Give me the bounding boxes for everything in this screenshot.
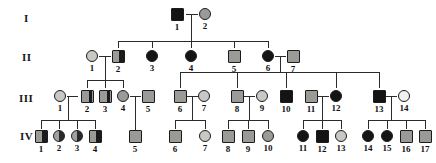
individual-iii-8-male[interactable]: [231, 90, 244, 103]
id-label-iii-4: 4: [121, 103, 126, 113]
id-label-iv-12: 12: [318, 144, 327, 154]
drop-IV-16: [406, 120, 407, 129]
id-label-ii-6: 6: [266, 63, 271, 73]
drop-III-10: [286, 72, 287, 88]
id-label-i-1: 1: [175, 22, 180, 32]
drop-IV-1: [41, 120, 42, 129]
id-label-iv-10: 10: [264, 143, 273, 153]
id-label-ii-4: 4: [189, 63, 194, 73]
drop-IV-13: [341, 120, 342, 129]
individual-iv-13-female[interactable]: [335, 130, 347, 142]
individual-iii-5-male[interactable]: [142, 90, 155, 103]
drop-III-12: [336, 72, 337, 88]
descent-III13x14: [391, 96, 392, 120]
id-label-iv-17: 17: [421, 144, 430, 154]
individual-iii-4-female[interactable]: [117, 90, 129, 102]
pedigree-chart: 1212345671234567891011121314123456789101…: [0, 0, 436, 163]
id-label-ii-5: 5: [232, 64, 237, 74]
individual-ii-4-female[interactable]: [185, 50, 197, 62]
individual-iv-3-female[interactable]: [71, 130, 83, 142]
individual-iii-9-female[interactable]: [256, 90, 268, 102]
individual-iv-10-female[interactable]: [262, 130, 274, 142]
individual-iii-6-male[interactable]: [174, 90, 187, 103]
id-label-iv-6: 6: [173, 144, 178, 154]
sibship-III-B: [180, 72, 379, 73]
id-label-iv-13: 13: [337, 143, 346, 153]
descent-I-to-II: [191, 14, 192, 41]
individual-iv-9-male[interactable]: [242, 130, 255, 143]
drop-IV-8: [228, 120, 229, 129]
individual-iii-12-female[interactable]: [330, 90, 342, 102]
descent-III6x7: [192, 96, 193, 120]
individual-iv-5-male[interactable]: [129, 130, 142, 143]
id-label-iv-1: 1: [39, 144, 44, 154]
drop-III-8: [237, 72, 238, 88]
individual-iv-11-female[interactable]: [297, 130, 309, 142]
drop-II-2: [118, 41, 119, 48]
generation-label-i: I: [24, 12, 29, 24]
descent-II1x2: [105, 56, 106, 80]
sibship-II-bar: [118, 41, 268, 42]
drop-IV-2: [59, 120, 60, 129]
id-label-iii-13: 13: [375, 104, 384, 114]
drop-IV-4: [95, 120, 96, 129]
individual-i-2-female[interactable]: [199, 8, 211, 20]
individual-iv-14-female[interactable]: [362, 130, 374, 142]
individual-iv-16-male[interactable]: [400, 130, 413, 143]
individual-iii-13-male[interactable]: [373, 90, 386, 103]
individual-iv-4-male[interactable]: [89, 130, 102, 143]
individual-iv-1-male[interactable]: [35, 130, 48, 143]
individual-iv-17-male[interactable]: [419, 130, 432, 143]
id-label-iv-11: 11: [299, 143, 308, 153]
individual-iii-10-male[interactable]: [280, 90, 293, 103]
id-label-iii-12: 12: [332, 103, 341, 113]
drop-IV-11: [303, 120, 304, 129]
id-label-ii-3: 3: [150, 63, 155, 73]
individual-ii-1-female[interactable]: [86, 50, 98, 62]
individual-iii-1-female[interactable]: [54, 90, 66, 102]
individual-iv-6-male[interactable]: [169, 130, 182, 143]
id-label-iv-15: 15: [383, 143, 392, 153]
individual-iii-14-female[interactable]: [398, 90, 410, 102]
individual-iii-3-male[interactable]: [99, 90, 112, 103]
drop-III-2: [87, 80, 88, 88]
drop-II-4: [191, 41, 192, 48]
descent-III1x2: [68, 96, 69, 120]
id-label-iii-3: 3: [103, 104, 108, 114]
drop-IV-6: [175, 120, 176, 129]
drop-IV-9: [248, 120, 249, 129]
individual-ii-5-male[interactable]: [228, 50, 241, 63]
individual-ii-3-female[interactable]: [146, 50, 158, 62]
individual-iii-11-male[interactable]: [305, 90, 318, 103]
id-label-iii-8: 8: [235, 104, 240, 114]
drop-II-6: [268, 41, 269, 48]
drop-IV-15: [387, 120, 388, 129]
individual-iv-12-male[interactable]: [316, 130, 329, 143]
individual-ii-6-female[interactable]: [262, 50, 274, 62]
generation-label-iii: III: [19, 92, 33, 104]
individual-i-1-male[interactable]: [171, 8, 184, 21]
individual-iv-7-female[interactable]: [199, 130, 211, 142]
individual-iii-7-female[interactable]: [198, 90, 210, 102]
individual-ii-7-male[interactable]: [287, 50, 300, 63]
id-label-iii-5: 5: [146, 104, 151, 114]
sibship-IV-F: [368, 120, 425, 121]
individual-iv-15-female[interactable]: [381, 130, 393, 142]
descent-III8x9: [249, 96, 250, 120]
id-label-iii-7: 7: [202, 103, 207, 113]
drop-IV-17: [425, 120, 426, 129]
descent-III4x5: [135, 96, 136, 130]
individual-iv-2-female[interactable]: [53, 130, 65, 142]
individual-ii-2-male[interactable]: [112, 50, 125, 63]
generation-label-iv: IV: [20, 130, 33, 142]
id-label-iii-1: 1: [58, 103, 63, 113]
generation-label-ii: II: [22, 51, 32, 63]
id-label-iii-11: 11: [307, 104, 316, 114]
individual-iii-2-male[interactable]: [81, 90, 94, 103]
individual-iv-8-male[interactable]: [222, 130, 235, 143]
id-label-i-2: 2: [203, 21, 208, 31]
drop-III-3: [105, 80, 106, 88]
id-label-iv-2: 2: [57, 143, 62, 153]
drop-IV-7: [205, 120, 206, 129]
id-label-iii-6: 6: [178, 104, 183, 114]
